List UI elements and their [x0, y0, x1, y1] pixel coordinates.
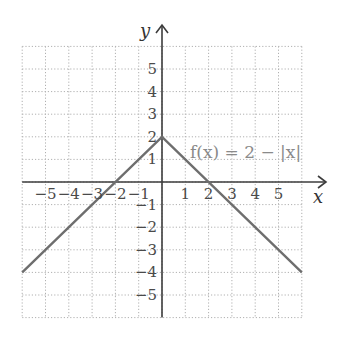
y-tick-label: 2 — [147, 128, 157, 146]
y-tick-label: 4 — [147, 83, 157, 101]
x-tick-label: 1 — [181, 185, 191, 203]
x-tick-label: 5 — [274, 185, 284, 203]
y-tick-label: −5 — [135, 286, 157, 304]
function-label: f(x) = 2 − |x| — [190, 142, 301, 162]
x-tick-label: 2 — [204, 185, 214, 203]
y-axis-label: y — [139, 20, 151, 41]
y-tick-label: 3 — [147, 105, 157, 123]
y-tick-label: −4 — [135, 263, 157, 281]
x-tick-label: 3 — [227, 185, 237, 203]
x-tick-label: −5 — [34, 185, 56, 203]
x-tick-label: −2 — [104, 185, 126, 203]
y-tick-label: 5 — [147, 60, 157, 78]
y-tick-label: −2 — [135, 218, 157, 236]
x-axis-label: x — [313, 186, 323, 207]
x-tick-label: −3 — [81, 185, 103, 203]
y-tick-label: 1 — [147, 150, 157, 168]
y-tick-label: −1 — [135, 196, 157, 214]
y-tick-label: −3 — [135, 241, 157, 259]
x-tick-label: −4 — [58, 185, 80, 203]
x-tick-label: 4 — [250, 185, 260, 203]
function-graph: −5−4−3−2−11234554321−1−2−3−4−5 x y f(x) … — [0, 0, 337, 349]
